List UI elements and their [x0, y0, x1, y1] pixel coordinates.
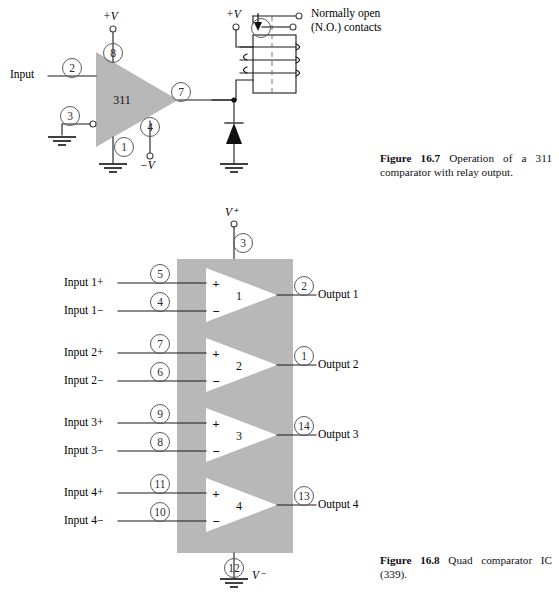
quad-pin-in2-plus: 7 [157, 338, 163, 350]
relay-supply-wire [233, 24, 253, 47]
pin-number-2: 2 [69, 62, 75, 74]
output-4-label: Output 4 [318, 498, 359, 510]
output-1-label: Output 1 [318, 288, 359, 300]
figure-16-7-caption-label: Figure 16.7 [380, 152, 440, 164]
relay-coil-body [212, 16, 300, 100]
pin3-ground-wire [48, 121, 96, 145]
comparator-4-number: 4 [236, 499, 242, 513]
input-2-plus-label: Input 2+ [64, 346, 103, 358]
output-2-label: Output 2 [318, 358, 359, 370]
comparator-2-minus-sign: − [212, 374, 219, 389]
quad-pin-in3-minus: 8 [157, 436, 163, 448]
input-4-minus-label: Input 4− [64, 514, 103, 526]
quad-pin-in2-minus: 6 [157, 366, 163, 378]
input-1-plus-label: Input 1+ [64, 276, 103, 288]
comparator-1-minus-sign: − [212, 304, 219, 319]
input-3-minus-label: Input 3− [64, 444, 103, 456]
schematic-canvas: .w { stroke:#1a1a1a; stroke-width:1.1; f… [0, 0, 559, 602]
quad-pin-in1-plus: 5 [157, 268, 163, 280]
quad-pin-vminus: 12 [228, 562, 240, 574]
comparator-3-minus-sign: − [212, 444, 219, 459]
comparator-1-number: 1 [236, 289, 242, 303]
figure-16-7-caption: Figure 16.7 Operation of a 311 comparato… [380, 151, 552, 179]
no-contacts-note-line1: Normally open [311, 7, 380, 21]
comparator-4-plus-sign: + [212, 486, 219, 501]
flyback-diode [220, 100, 248, 172]
quad-pin-out4: 13 [298, 490, 310, 502]
quad-pin-vplus: 3 [240, 237, 246, 249]
fig167-pin-bubbles [61, 19, 271, 157]
comparator-3-plus-sign: + [212, 416, 219, 431]
quad-pin-out1: 2 [301, 280, 307, 292]
negative-supply-label: −V [140, 159, 155, 171]
comparator-2-plus-sign: + [212, 346, 219, 361]
no-contacts-note-line2: (N.O.) contacts [311, 21, 382, 35]
quad-pin-in3-plus: 9 [157, 408, 163, 420]
relay-no-contacts [253, 13, 302, 31]
comparator-4-minus-sign: − [212, 514, 219, 529]
input-1-minus-label: Input 1− [64, 304, 103, 316]
output-3-label: Output 3 [318, 428, 359, 440]
pin-number-8: 8 [110, 47, 116, 59]
quad-negative-supply-label: V⁻ [252, 568, 265, 582]
input-3-plus-label: Input 3+ [64, 416, 103, 428]
comparator-1-plus-sign: + [212, 276, 219, 291]
pin-number-3: 3 [67, 110, 73, 122]
quad-pin-out3: 14 [298, 420, 310, 432]
input-label: Input [10, 68, 34, 80]
pin-number-7: 7 [178, 86, 184, 98]
input-4-plus-label: Input 4+ [64, 486, 103, 498]
quad-positive-supply-label: V⁺ [225, 205, 238, 219]
comparator-311-body: 311 [96, 52, 178, 147]
quad-pin-in1-minus: 4 [157, 296, 163, 308]
quad-pin-in4-plus: 11 [154, 478, 165, 490]
figure-16-8-caption-label: Figure 16.8 [380, 554, 440, 566]
device-label-311: 311 [113, 93, 131, 107]
figure-page: .w { stroke:#1a1a1a; stroke-width:1.1; f… [0, 0, 559, 602]
quad-pin-in4-minus: 10 [154, 506, 166, 518]
figure-16-8-caption: Figure 16.8 Quad comparator IC (339). [380, 553, 552, 581]
quad-pin-out2: 1 [301, 350, 307, 362]
pin-number-1: 1 [121, 141, 127, 153]
pin-number-4: 4 [147, 121, 153, 133]
positive-supply-label: +V [103, 10, 118, 22]
comparator-2-number: 2 [236, 359, 242, 373]
relay-supply-label: +V [226, 8, 241, 20]
input-2-minus-label: Input 2− [64, 374, 103, 386]
comparator-3-number: 3 [236, 429, 242, 443]
